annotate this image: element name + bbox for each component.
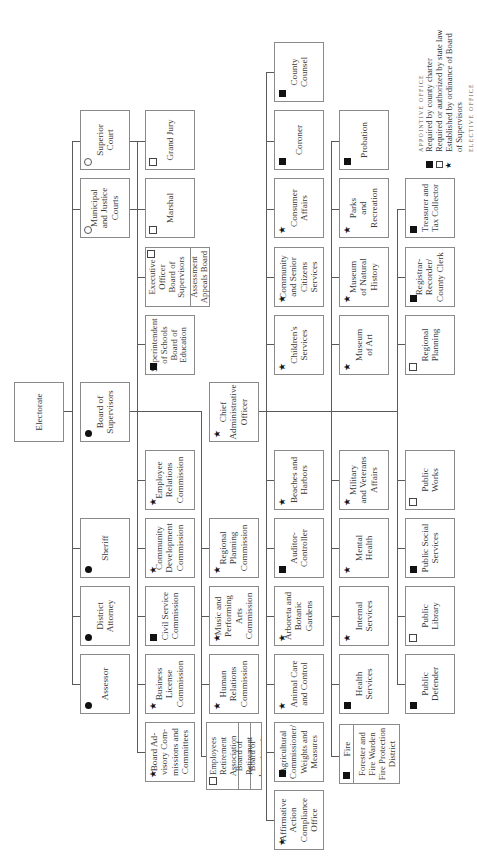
node-label: District Attorney <box>95 588 116 644</box>
node-treasurer[interactable]: Treasurer and Tax Collector <box>405 178 455 238</box>
connector <box>201 411 202 757</box>
node-animal-care[interactable]: Animal Care and Control ★ <box>274 654 324 714</box>
connector <box>331 756 339 757</box>
node-label: Marshal <box>165 180 175 236</box>
node-public-works[interactable]: Public Works <box>405 450 455 510</box>
connector <box>397 344 405 345</box>
node-label: Animal Care and Control <box>289 656 310 712</box>
node-public-defender[interactable]: Public Defender <box>405 654 455 714</box>
node-childrens-services[interactable]: Children's Services ★ <box>274 315 324 375</box>
node-label: Museum of Art <box>354 317 375 373</box>
star-icon: ★ <box>149 498 157 506</box>
node-chief-administrative-officer[interactable]: Chief Administrative Officer ★ <box>209 382 259 442</box>
node-mental-health[interactable]: Mental Health ★ <box>339 518 389 578</box>
node-label: Military and Veterans Affairs <box>348 451 379 509</box>
star-icon: ★ <box>213 702 221 710</box>
connector <box>266 277 274 278</box>
node-marshal[interactable]: Marshal <box>145 178 195 238</box>
county-charter-square-icon <box>409 566 417 574</box>
node-grand-jury[interactable]: Grand Jury <box>145 110 195 170</box>
node-label: Employee Relations Commission <box>154 452 185 508</box>
node-probation[interactable]: Probation <box>339 110 389 170</box>
node-superintendent[interactable]: Superintendent of Schools Board of Educa… <box>145 315 195 375</box>
node-label: Civil Service Commission <box>160 587 181 645</box>
node-civil-service[interactable]: Civil Service Commission <box>145 586 195 646</box>
node-employee-relations[interactable]: Employee Relations Commission ★ <box>145 450 195 510</box>
node-public-social-services[interactable]: Public Social Services <box>405 518 455 578</box>
county-charter-square-icon <box>343 702 351 710</box>
star-icon: ★ <box>278 634 286 642</box>
node-label: Public Library <box>420 588 441 644</box>
county-charter-square-icon <box>426 162 433 169</box>
connector <box>258 411 398 412</box>
star-icon: ★ <box>278 295 286 303</box>
node-executive-officer[interactable]: Executive Officer Board of Supervisors A… <box>145 247 210 307</box>
node-district-attorney[interactable]: District Attorney <box>80 586 130 646</box>
legend-elective-heading: Elective office <box>468 4 474 174</box>
state-law-square-icon <box>149 226 157 234</box>
node-regional-planning-commission[interactable]: Regional Planning Commission ★ <box>209 518 259 578</box>
node-internal-services[interactable]: Internal Services ★ <box>339 586 389 646</box>
connector <box>266 820 274 821</box>
node-agricultural-commissioner[interactable]: Agricultural Commissioner/ Weights and M… <box>274 722 324 782</box>
connector <box>266 72 274 73</box>
node-label: Beaches and Harbors <box>289 452 310 508</box>
connector <box>397 684 405 685</box>
node-sublabel: Assessment Appeals Board <box>190 247 210 307</box>
node-health-services[interactable]: Health Services <box>339 654 389 714</box>
node-human-relations[interactable]: Human Relations Commission ★ <box>209 654 259 714</box>
node-museum-of-art[interactable]: Museum of Art ★ <box>339 315 389 375</box>
node-electorate[interactable]: Electorate <box>14 382 64 442</box>
county-charter-square-icon <box>278 770 286 778</box>
connector <box>63 411 72 412</box>
state-law-square-icon <box>409 498 417 506</box>
node-auditor-controller[interactable]: Auditor- Controller <box>274 518 324 578</box>
node-board-of-supervisors[interactable]: Board of Supervisors <box>80 382 130 442</box>
node-music-performing-arts[interactable]: Music and Performing Arts Commission ★ <box>209 586 259 646</box>
node-consumer-affairs[interactable]: Consumer Affairs ★ <box>274 178 324 238</box>
node-business-license[interactable]: Business License Commission ★ <box>145 654 195 714</box>
node-parks-recreation[interactable]: Parks and Recreation ★ <box>339 178 389 238</box>
node-community-development[interactable]: Community Development Commission ★ <box>145 518 195 578</box>
state-law-square-icon <box>436 162 443 169</box>
node-superior-court[interactable]: Superior Court <box>80 110 130 170</box>
star-icon: ★ <box>343 363 351 371</box>
node-label: Sheriff <box>100 520 110 576</box>
node-board-advisory[interactable]: Board Ad- visory Com- missions and Commi… <box>145 722 195 782</box>
node-military-veterans[interactable]: Military and Veterans Affairs ★ <box>339 450 389 510</box>
connector <box>137 548 145 549</box>
connector <box>397 548 405 549</box>
node-arboreta[interactable]: Arboreta and Botanic Gardens ★ <box>274 586 324 646</box>
node-label: Consumer Affairs <box>289 180 310 236</box>
node-regional-planning[interactable]: Regional Planning <box>405 315 455 375</box>
star-icon: ★ <box>343 634 351 642</box>
node-county-counsel[interactable]: County Counsel <box>274 42 324 102</box>
legend-item-county: Required by county charter <box>424 4 434 174</box>
node-beaches-harbors[interactable]: Beaches and Harbors ★ <box>274 450 324 510</box>
connector <box>266 616 274 617</box>
node-public-library[interactable]: Public Library <box>405 586 455 646</box>
node-label: Business License Commission <box>154 656 185 712</box>
node-municipal-courts[interactable]: Municipal and Justice Courts <box>80 178 130 238</box>
star-icon: ★ <box>343 498 351 506</box>
connector <box>129 411 201 412</box>
node-sublabel: Forester and Fire Warden Fire Protection… <box>357 724 397 784</box>
connector <box>137 277 145 278</box>
node-label: Internal Services <box>354 588 375 644</box>
connector <box>397 277 405 278</box>
node-assessor[interactable]: Assessor <box>80 654 130 714</box>
node-fire[interactable]: Fire Forester and Fire Warden Fire Prote… <box>339 724 400 784</box>
node-label: Parks and Recreation <box>348 180 379 236</box>
node-employees-retirement[interactable]: Employees Retirement Association Board o… <box>206 722 262 790</box>
connector <box>137 752 145 753</box>
county-charter-square-icon <box>149 634 157 642</box>
node-affirmative-action[interactable]: Affirmative Action Compliance Office ★ <box>274 790 324 850</box>
star-icon: ★ <box>213 566 221 574</box>
node-community-senior-citizens[interactable]: Community and Senior Citizens Services ★ <box>274 247 324 307</box>
node-registrar-recorder[interactable]: Registrar- Recorder/ County Clerk <box>405 247 455 307</box>
node-sheriff[interactable]: Sheriff <box>80 518 130 578</box>
star-icon: ★ <box>343 566 351 574</box>
node-museum-natural-history[interactable]: Museum of Natural History ★ <box>339 247 389 307</box>
state-law-square-icon <box>147 250 155 258</box>
node-coroner[interactable]: Coroner <box>274 110 324 170</box>
